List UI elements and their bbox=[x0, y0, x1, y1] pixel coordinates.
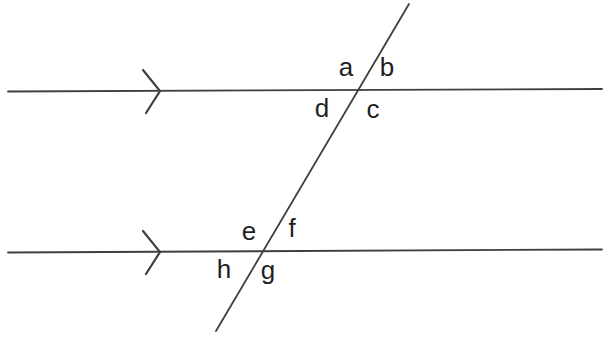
angle-label-b: b bbox=[380, 54, 394, 80]
angle-label-h: h bbox=[217, 256, 231, 282]
figure-linework bbox=[0, 0, 606, 337]
angle-label-f: f bbox=[288, 215, 295, 241]
top-parallel-line bbox=[8, 89, 602, 92]
angle-label-a: a bbox=[339, 54, 353, 80]
angle-label-d: d bbox=[315, 95, 329, 121]
bottom-parallel-line bbox=[8, 250, 602, 253]
angle-label-g: g bbox=[261, 257, 275, 283]
parallel-lines-transversal-figure: a b c d e f g h bbox=[0, 0, 606, 337]
angle-label-c: c bbox=[367, 96, 380, 122]
angle-label-e: e bbox=[242, 218, 256, 244]
